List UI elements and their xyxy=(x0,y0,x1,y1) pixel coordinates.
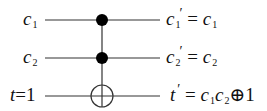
input-sub: 1 xyxy=(32,19,37,30)
input-sub: 2 xyxy=(32,57,37,68)
input-label-c1: c1 xyxy=(23,9,37,31)
rhs-var: c xyxy=(201,84,209,105)
rhs-sub: 2 xyxy=(212,57,217,68)
out-var: c xyxy=(166,8,174,29)
input-var: c xyxy=(23,46,31,67)
output-label-c2: c2′ = c2 xyxy=(166,47,217,69)
rhs-sub: 1 xyxy=(210,95,215,106)
rhs-var: c xyxy=(215,84,223,105)
out-var: t xyxy=(170,84,175,105)
rhs-sub: 2 xyxy=(224,95,229,106)
input-var: c xyxy=(23,8,31,29)
input-label-t: t=1 xyxy=(10,85,36,104)
equals: = xyxy=(183,8,203,29)
control-dot-c2 xyxy=(96,52,108,64)
prime: ′ xyxy=(177,82,180,97)
out-var: c xyxy=(166,46,174,67)
control-dot-c1 xyxy=(96,14,108,26)
prime: ′ xyxy=(179,44,182,59)
rhs-var: c xyxy=(203,46,211,67)
prime: ′ xyxy=(179,6,182,21)
input-suffix: =1 xyxy=(15,84,35,105)
output-label-c1: c1′ = c1 xyxy=(166,9,217,31)
rhs-var: c xyxy=(203,8,211,29)
equals: = xyxy=(180,84,200,105)
input-label-c2: c2 xyxy=(23,47,37,69)
output-label-t: t′ = c1c2⊕1 xyxy=(170,85,255,107)
equals: = xyxy=(183,46,203,67)
rhs-sub: 1 xyxy=(212,19,217,30)
xor-one: ⊕1 xyxy=(229,84,254,105)
